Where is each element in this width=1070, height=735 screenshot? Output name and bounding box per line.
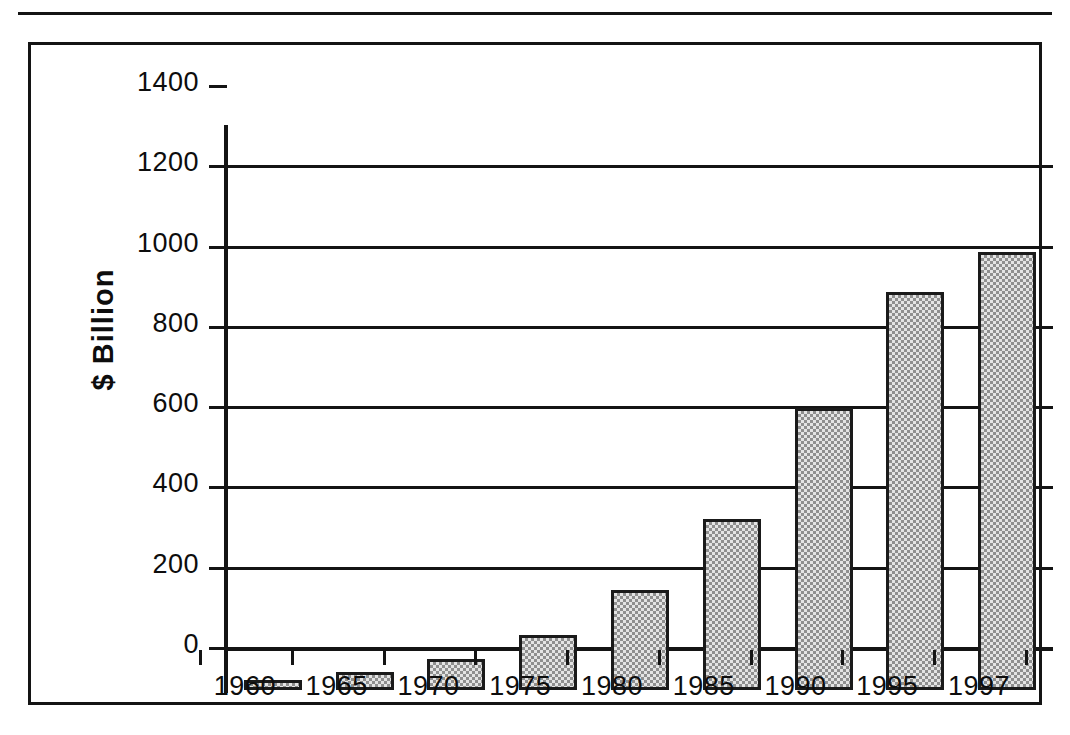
y-tick-mark	[209, 486, 227, 489]
x-tick-mark	[291, 650, 294, 665]
bar-1997	[978, 252, 1036, 690]
y-tick-label: 800	[71, 308, 199, 339]
x-tick-mark	[933, 650, 936, 665]
x-tick-label: 1997	[933, 671, 1025, 702]
y-tick-label: 600	[71, 388, 199, 419]
x-tick-label: 1985	[658, 671, 750, 702]
plot-area	[227, 128, 1053, 690]
y-tick-mark	[209, 406, 227, 409]
bar-1995	[886, 292, 944, 690]
y-tick-label: 1200	[71, 147, 199, 178]
x-tick-label: 1965	[291, 671, 383, 702]
chart-frame: $ Billion 0200400600800100012001400 1960…	[28, 42, 1042, 705]
x-tick-mark	[1025, 650, 1028, 665]
y-tick-mark	[209, 567, 227, 570]
x-tick-label: 1995	[841, 671, 933, 702]
y-tick-label: 1400	[71, 67, 199, 98]
x-tick-mark	[658, 650, 661, 665]
y-tick-label: 400	[71, 468, 199, 499]
x-tick-mark	[841, 650, 844, 665]
y-tick-mark	[209, 85, 227, 88]
x-tick-label: 1960	[199, 671, 291, 702]
x-tick-mark	[199, 650, 202, 665]
x-tick-mark	[383, 650, 386, 665]
x-tick-mark	[566, 650, 569, 665]
x-tick-label: 1970	[383, 671, 475, 702]
y-tick-label: 1000	[71, 228, 199, 259]
y-tick-mark	[209, 165, 227, 168]
y-tick-label: 0	[71, 629, 199, 660]
y-tick-label: 200	[71, 549, 199, 580]
x-tick-label: 1980	[566, 671, 658, 702]
x-tick-mark	[750, 650, 753, 665]
bar-1990	[795, 408, 853, 690]
x-tick-label: 1975	[474, 671, 566, 702]
top-horizontal-rule	[18, 12, 1052, 15]
y-tick-mark	[209, 647, 227, 650]
x-tick-label: 1990	[750, 671, 842, 702]
y-tick-mark	[209, 246, 227, 249]
y-tick-mark	[209, 326, 227, 329]
x-tick-mark	[474, 650, 477, 665]
